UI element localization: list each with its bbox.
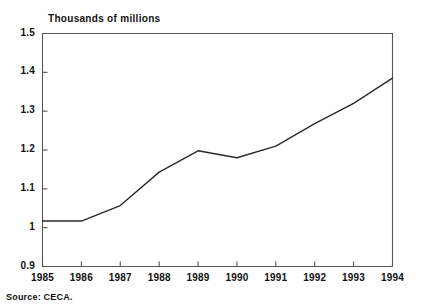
chart-plot-svg [0, 0, 423, 308]
x-axis-tick-label: 1993 [332, 272, 376, 283]
x-axis-tick-label: 1986 [59, 272, 103, 283]
series-line-thousands-of-millions [43, 78, 393, 221]
y-axis-tick-marks [43, 34, 48, 267]
source-note: Source: CECA. [6, 292, 73, 302]
x-axis-tick-label: 1988 [137, 272, 181, 283]
y-axis-tick-label: 1 [3, 221, 35, 232]
x-axis-tick-label: 1987 [98, 272, 142, 283]
x-axis-tick-label: 1989 [176, 272, 220, 283]
plot-axes [43, 34, 393, 267]
y-axis-tick-label: 1.3 [3, 104, 35, 115]
y-axis-tick-label: 1.5 [3, 27, 35, 38]
x-axis-tick-marks [43, 262, 393, 267]
x-axis-tick-label: 1992 [293, 272, 337, 283]
y-axis-tick-label: 1.4 [3, 65, 35, 76]
plot-border [43, 34, 393, 267]
y-axis-tick-label: 1.2 [3, 143, 35, 154]
data-series-group [43, 78, 393, 221]
x-axis-tick-label: 1991 [254, 272, 298, 283]
y-axis-tick-label: 1.1 [3, 182, 35, 193]
x-axis-tick-label: 1985 [21, 272, 65, 283]
chart-figure: Thousands of millions 0.911.11.21.31.41.… [0, 0, 423, 308]
y-axis-tick-label: 0.9 [3, 260, 35, 271]
x-axis-tick-label: 1994 [371, 272, 415, 283]
x-axis-tick-label: 1990 [215, 272, 259, 283]
